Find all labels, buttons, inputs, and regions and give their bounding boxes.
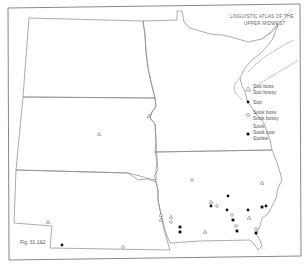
state-south-dakota	[16, 97, 158, 180]
atlas-map: LINGUISTIC ATLAS OF THE UPPER MIDWEST So…	[0, 0, 304, 264]
open-circle-icon	[122, 246, 125, 249]
legend-label: Sook bossy	[253, 115, 279, 121]
triangle-icon	[97, 132, 101, 135]
square-icon	[179, 231, 182, 234]
open-circle-icon	[191, 179, 194, 182]
state-north-dakota	[23, 18, 155, 98]
legend-label: Soo bossy	[253, 89, 277, 95]
dot-icon	[61, 244, 64, 247]
triangle-icon	[46, 220, 50, 223]
square-icon	[247, 133, 250, 136]
open-circle-icon	[255, 228, 258, 231]
legend-label: Soo	[253, 99, 262, 105]
square-icon	[255, 232, 258, 235]
survey-points	[46, 114, 267, 248]
square-icon	[261, 206, 264, 209]
figure-label: Fig. 31.1&2	[20, 239, 46, 245]
square-icon	[179, 226, 182, 229]
triangle-icon	[147, 114, 151, 117]
open-circle-icon	[235, 225, 238, 228]
dot-icon	[247, 209, 250, 212]
triangle-icon	[203, 230, 207, 233]
state-iowa	[155, 150, 282, 250]
triangle-icon	[246, 87, 251, 91]
triangle-icon	[247, 216, 251, 219]
dot-icon	[247, 101, 250, 104]
state-nebraska	[14, 170, 170, 250]
legend-label: Sookie	[253, 135, 269, 141]
atlas-title-line1: LINGUISTIC ATLAS OF THE	[230, 14, 294, 19]
open-circle-icon	[231, 214, 234, 217]
open-circle-icon	[216, 205, 219, 208]
dot-icon	[226, 209, 229, 212]
triangle-icon	[169, 215, 173, 218]
atlas-title-line2: UPPER MIDWEST	[244, 21, 285, 26]
triangle-icon	[209, 200, 213, 203]
legend: Soo boss Soo bossy Soo Sook boss Sook bo…	[246, 83, 280, 141]
square-icon	[232, 219, 235, 222]
open-circle-icon	[170, 221, 173, 224]
dot-icon	[210, 205, 213, 208]
square-icon	[236, 230, 239, 233]
triangle-icon	[260, 181, 264, 184]
dot-icon	[265, 205, 268, 208]
triangle-icon	[159, 213, 163, 216]
dot-icon	[227, 195, 230, 198]
open-circle-icon	[247, 114, 250, 117]
